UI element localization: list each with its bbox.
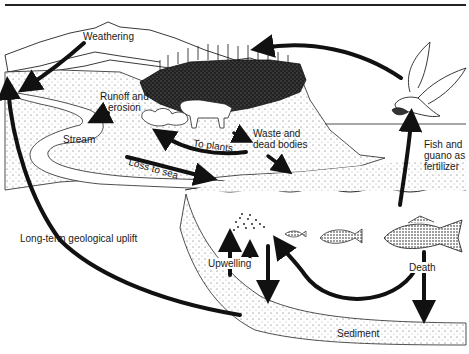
label-geological-uplift: Long-term geological uplift [20,233,137,244]
label-stream: Stream [63,134,95,145]
label-weathering: Weathering [83,31,134,42]
seabird [392,42,466,117]
label-sediment: Sediment [337,328,379,339]
label-upwelling: Upwelling [208,258,251,269]
label-waste: Waste and dead bodies [253,128,308,150]
arrow-recycle [280,245,415,299]
label-death: Death [409,262,436,273]
label-runoff: Runoff and erosion [100,91,149,113]
phosphorus-cycle-diagram [0,0,469,354]
small-fish [285,231,306,237]
medium-fish [320,229,362,243]
large-fish [384,216,462,252]
plankton [233,213,265,231]
label-fish-guano: Fish and guano as fertilizer [424,139,465,172]
